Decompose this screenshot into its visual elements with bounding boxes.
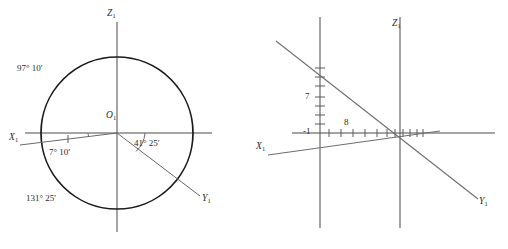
right-z-axis-label: Z1 bbox=[392, 19, 401, 29]
right-y1-line bbox=[276, 41, 478, 199]
left-lower-left-angle-label: 131° 25′ bbox=[26, 194, 56, 203]
left-small-angle-arc bbox=[88, 133, 89, 137]
figure-canvas bbox=[0, 0, 508, 249]
right-tick-label-7: 7 bbox=[305, 92, 310, 101]
left-origin-label: O1 bbox=[106, 111, 116, 121]
left-z-axis-label: Z1 bbox=[107, 9, 116, 19]
right-panel-group bbox=[268, 17, 495, 228]
figure-root: Z1 X1 Y1 O1 97° 10′ 131° 25′ 7° 10′ 41° … bbox=[0, 0, 508, 249]
left-upper-left-angle-label: 97° 10′ bbox=[17, 64, 43, 73]
right-tick-label-8: 8 bbox=[344, 118, 349, 127]
left-x-axis-label: X1 bbox=[9, 133, 18, 143]
left-small-angle-label: 7° 10′ bbox=[49, 148, 70, 157]
right-x1-line bbox=[268, 131, 440, 155]
right-x-axis-label: X1 bbox=[256, 142, 265, 152]
right-y-axis-label: Y1 bbox=[479, 197, 488, 207]
right-tick-label-minus1: -1 bbox=[303, 127, 311, 136]
left-right-angle-label: 41° 25′ bbox=[134, 139, 160, 148]
left-y-axis-label: Y1 bbox=[202, 194, 211, 204]
